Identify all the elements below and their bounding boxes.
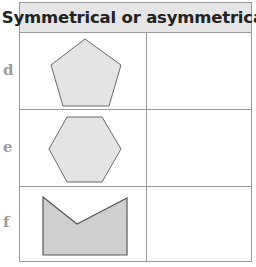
symmetry-table: Symmetrical or asymmetrical bbox=[19, 2, 252, 262]
table-row bbox=[20, 110, 251, 187]
pentagon-icon bbox=[20, 33, 147, 110]
shape-cell bbox=[20, 33, 147, 109]
answer-cell[interactable] bbox=[147, 110, 251, 186]
hexagon-icon bbox=[20, 110, 147, 187]
table-row bbox=[20, 187, 251, 261]
answer-cell[interactable] bbox=[147, 33, 251, 109]
answer-cell[interactable] bbox=[147, 187, 251, 261]
shape-cell bbox=[20, 110, 147, 186]
row-label-e: e bbox=[3, 138, 13, 156]
notched-rectangle-icon bbox=[20, 187, 147, 261]
table-header: Symmetrical or asymmetrical bbox=[20, 3, 251, 33]
shape-cell bbox=[20, 187, 147, 261]
row-label-d: d bbox=[3, 61, 14, 79]
table-row bbox=[20, 33, 251, 110]
row-label-f: f bbox=[3, 213, 9, 231]
worksheet-page: d e f Symmetrical or asymmetrical bbox=[0, 0, 256, 267]
